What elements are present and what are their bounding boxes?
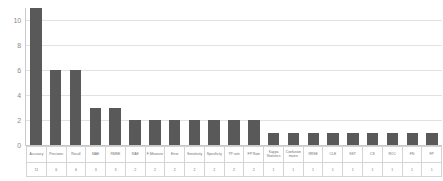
bar-cell [145,8,165,145]
data-table-category-cell: Sensitivity [185,147,205,162]
data-table-value-cell: 1 [284,163,304,176]
bar[interactable] [129,120,140,145]
bar-cell [204,8,224,145]
bar-cell [323,8,343,145]
bar[interactable] [407,133,418,145]
data-table-value-cell: 1 [323,163,343,176]
y-axis-tick-label: 8 [17,42,21,49]
bar-cell [422,8,442,145]
bar-cell [105,8,125,145]
data-table-value-cell: 1 [304,163,324,176]
data-table-value-cell: 2 [244,163,264,176]
bar[interactable] [189,120,200,145]
bar-cell [284,8,304,145]
bar[interactable] [288,133,299,145]
data-table-category-cell: Confusion matrix [284,147,304,162]
data-table-value-cell: 6 [67,163,87,176]
data-table-category-cell: SST [343,147,363,162]
data-table-category-cell: Accuracy [26,147,47,162]
data-table-category-cell: CLE [323,147,343,162]
data-table-category-cell: FP Rate [244,147,264,162]
plot-area [26,8,442,145]
data-table-category-cell: F-Measure [146,147,166,162]
y-axis-tick-label: 2 [17,117,21,124]
data-table-category-cell: CS [363,147,383,162]
data-table-category-cell: RRSE [304,147,324,162]
bar-series [26,8,442,145]
bar[interactable] [109,108,120,145]
bar-cell [85,8,105,145]
data-table-value-cell: 3 [86,163,106,176]
bar[interactable] [308,133,319,145]
bar[interactable] [30,8,41,145]
bar-cell [303,8,323,145]
data-table-value-cell: 11 [26,163,47,176]
data-table-value-row: 1166332222222111111111 [26,163,442,177]
bar-cell [185,8,205,145]
data-table-category-cell: MAE [86,147,106,162]
data-table-category-cell: Error [165,147,185,162]
data-table-value-cell: 2 [146,163,166,176]
bar[interactable] [387,133,398,145]
bar[interactable] [90,108,101,145]
bar-cell [383,8,403,145]
bar[interactable] [70,70,81,145]
data-table-value-cell: 6 [47,163,67,176]
y-axis-tick-label: 10 [13,17,21,24]
bar[interactable] [426,133,437,145]
bar-cell [165,8,185,145]
bar-cell [66,8,86,145]
bar[interactable] [149,120,160,145]
y-axis-tick-label: 0 [17,142,21,149]
data-table-value-cell: 2 [225,163,245,176]
data-table-category-cell: Kappa Statistics [264,147,284,162]
bar[interactable] [208,120,219,145]
data-table-category-cell: RAE [126,147,146,162]
data-table-value-cell: 2 [126,163,146,176]
bar[interactable] [268,133,279,145]
bar-cell [343,8,363,145]
y-axis-tick-label: 6 [17,67,21,74]
data-table-category-cell: TP rate [225,147,245,162]
plot-wrapper: 0246810 [0,0,443,146]
data-table-category-cell: ROC [383,147,403,162]
bar[interactable] [169,120,180,145]
bar-cell [46,8,66,145]
data-table-category-row: AccuracyPrecisionRecallMAERMSERAEF-Measu… [26,147,442,163]
data-table-value-cell: 1 [383,163,403,176]
bar-cell [264,8,284,145]
bar[interactable] [367,133,378,145]
bar-cell [402,8,422,145]
bar-cell [363,8,383,145]
data-table-value-cell: 1 [363,163,383,176]
bar-cell [125,8,145,145]
y-axis: 0246810 [0,0,24,146]
bar[interactable] [327,133,338,145]
data-table-value-cell: 1 [422,163,442,176]
data-table-value-cell: 2 [165,163,185,176]
data-table-category-cell: Recall [67,147,87,162]
data-table-category-cell: FN [403,147,423,162]
data-table-value-cell: 3 [106,163,126,176]
data-table-category-cell: Specificity [205,147,225,162]
data-table-category-cell: FP [422,147,442,162]
bar-cell [26,8,46,145]
data-table-value-cell: 2 [205,163,225,176]
bar[interactable] [228,120,239,145]
data-table-value-cell: 1 [264,163,284,176]
data-table-category-cell: RMSE [106,147,126,162]
data-table-value-cell: 2 [185,163,205,176]
y-axis-tick-label: 4 [17,92,21,99]
bar[interactable] [347,133,358,145]
data-table-value-cell: 1 [343,163,363,176]
bar-chart: 0246810 AccuracyPrecisionRecallMAERMSERA… [0,0,443,181]
bar-cell [244,8,264,145]
bar[interactable] [50,70,61,145]
data-table-category-cell: Precision [47,147,67,162]
bar-cell [224,8,244,145]
chart-data-table: AccuracyPrecisionRecallMAERMSERAEF-Measu… [26,146,442,177]
bar[interactable] [248,120,259,145]
data-table-value-cell: 1 [403,163,423,176]
